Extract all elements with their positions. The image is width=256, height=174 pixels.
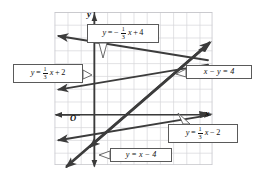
equation-label-one-third-x-plus-2: y = 1 3 x + 2 xyxy=(13,64,83,83)
eq-operator: + xyxy=(133,29,138,37)
fraction-numerator: 1 xyxy=(198,126,203,133)
fraction-denominator: 3 xyxy=(43,73,48,81)
equation-text: y = 1 3 x + 2 xyxy=(31,66,66,80)
eq-constant: 2 xyxy=(216,129,220,137)
equation-label-x-minus-y-equals-4: x − y = 4 xyxy=(186,65,252,79)
eq-variable: x xyxy=(50,69,54,77)
eq-lhs: y xyxy=(31,69,35,77)
fraction-numerator: 1 xyxy=(43,66,48,73)
equation-text: y = x − 4 xyxy=(126,151,157,159)
eq-fraction: 1 3 xyxy=(121,26,126,40)
fraction-denominator: 3 xyxy=(121,33,126,41)
graph-figure: y x O y = − 1 3 x + 4 y = 1 3 x + 2 xyxy=(0,0,256,174)
eq-equals: = xyxy=(108,29,113,37)
eq-constant: 4 xyxy=(139,29,143,37)
equation-label-neg-one-third-x-plus-4: y = − 1 3 x + 4 xyxy=(87,24,159,43)
equation-label-one-third-x-minus-2: y = 1 3 x − 2 xyxy=(168,124,238,143)
origin-label: O xyxy=(70,113,76,123)
equation-text: x − y = 4 xyxy=(204,68,235,76)
eq-operator: + xyxy=(55,69,60,77)
eq-lhs: y xyxy=(186,129,190,137)
equation-text: y = 1 3 x − 2 xyxy=(186,126,221,140)
eq-operator: − xyxy=(210,129,215,137)
fraction-numerator: 1 xyxy=(121,26,126,33)
y-axis-label: y xyxy=(87,9,91,19)
eq-variable: x xyxy=(128,29,132,37)
eq-equals: = xyxy=(191,129,196,137)
eq-fraction: 1 3 xyxy=(43,66,48,80)
eq-fraction: 1 3 xyxy=(198,126,203,140)
eq-equals: = xyxy=(36,69,41,77)
eq-variable: x xyxy=(205,129,209,137)
eq-sign: − xyxy=(114,29,119,37)
equation-label-y-equals-x-minus-4: y = x − 4 xyxy=(110,148,172,162)
eq-constant: 2 xyxy=(61,69,65,77)
x-axis-label: x xyxy=(205,108,210,118)
eq-lhs: y xyxy=(103,29,107,37)
equation-text: y = − 1 3 x + 4 xyxy=(103,26,144,40)
fraction-denominator: 3 xyxy=(198,133,203,141)
